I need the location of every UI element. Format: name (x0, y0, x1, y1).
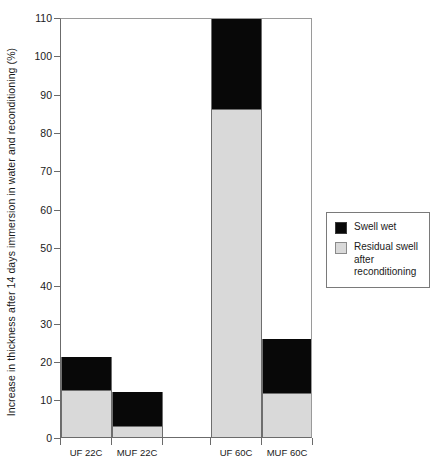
x-axis-label-muf-22c: MUF 22C (117, 447, 158, 458)
y-tick-label: 70 (8, 166, 52, 176)
x-tick-mark (312, 438, 313, 445)
y-tick-label: 90 (8, 90, 52, 100)
x-axis-label-muf-60c: MUF 60C (267, 447, 308, 458)
legend-item-swell-wet[interactable]: Swell wet (335, 221, 422, 234)
y-tick-label: 40 (8, 281, 52, 291)
bar-muf-22c[interactable] (112, 392, 163, 437)
legend-item-residual-swell[interactable]: Residual swell after reconditioning (335, 241, 422, 279)
y-tick-label: 50 (8, 243, 52, 253)
black-square-swatch-icon (335, 222, 347, 234)
x-tick-mark (261, 438, 262, 445)
bar-uf-22c[interactable] (61, 357, 112, 437)
y-tick-label: 100 (8, 51, 52, 61)
y-tick-label: 30 (8, 319, 52, 329)
x-tick-mark (162, 438, 163, 445)
gray-square-swatch-icon (335, 242, 347, 254)
chart-legend: Swell wet Residual swell after reconditi… (326, 212, 430, 288)
bar-uf-60c[interactable] (211, 19, 262, 437)
bar-segment-residual-swell (262, 393, 311, 437)
x-tick-mark (210, 438, 211, 445)
y-tick-label: 60 (8, 205, 52, 215)
y-tick-label: 110 (8, 13, 52, 23)
x-axis-label-uf-22c: UF 22C (70, 447, 103, 458)
y-tick-label: 0 (8, 433, 52, 443)
plot-area (60, 18, 312, 438)
legend-label: Swell wet (354, 221, 396, 234)
x-tick-mark (60, 438, 61, 445)
bar-segment-residual-swell (61, 390, 112, 437)
plot-inner (61, 19, 311, 437)
y-tick-label: 10 (8, 395, 52, 405)
legend-label: Residual swell after reconditioning (354, 241, 422, 279)
y-tick-label: 80 (8, 128, 52, 138)
y-tick-label: 20 (8, 357, 52, 367)
x-axis-label-uf-60c: UF 60C (220, 447, 253, 458)
bar-muf-60c[interactable] (262, 339, 311, 437)
bar-segment-residual-swell (112, 426, 163, 437)
x-tick-mark (111, 438, 112, 445)
bar-segment-residual-swell (211, 109, 262, 437)
